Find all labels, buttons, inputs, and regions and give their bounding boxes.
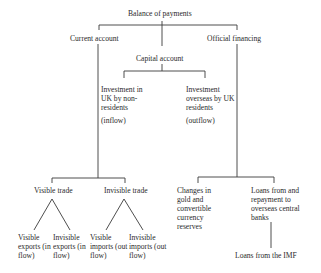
node-official-financing: Official financing [207, 34, 261, 43]
node-visible-trade: Visible trade [34, 186, 73, 195]
node-investment-in-uk: Investment in UK by non-residents [101, 85, 153, 112]
node-loans-imf: Loans from the IMF [235, 251, 297, 260]
node-changes-in-gold: Changes in gold and convertible currency… [177, 186, 219, 231]
node-loans-repayment: Loans from and repayment to overseas cen… [251, 186, 307, 222]
node-balance-of-payments: Balance of payments [128, 9, 192, 18]
node-visible-imports: Visible imports (out flow) [90, 233, 128, 260]
node-visible-exports: Visible exports (in flow) [18, 233, 52, 260]
node-outflow-label: (outflow) [186, 116, 215, 125]
node-current-account: Current account [70, 34, 119, 43]
node-capital-account: Capital account [136, 54, 183, 63]
node-investment-overseas: Investment overseas by UK residents [186, 85, 238, 112]
node-invisible-imports: Invisible imports (out flow) [129, 233, 167, 260]
node-invisible-trade: Invisible trade [104, 186, 148, 195]
node-invisible-exports: Invisible exports (in flow) [53, 233, 87, 260]
node-inflow-label: (inflow) [101, 116, 126, 125]
